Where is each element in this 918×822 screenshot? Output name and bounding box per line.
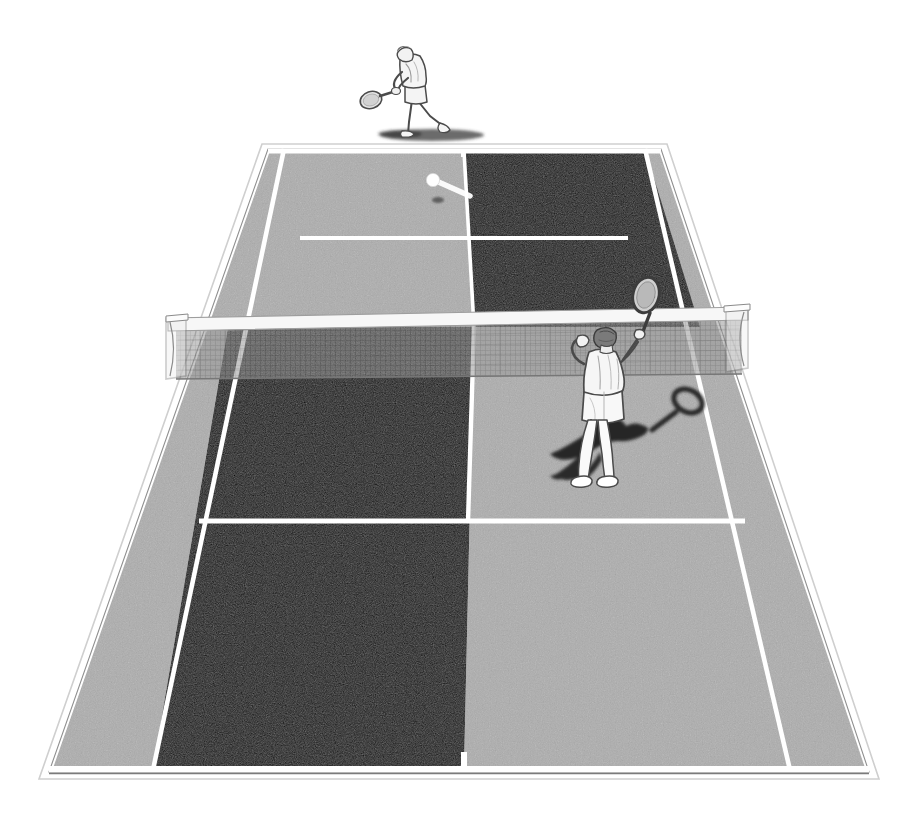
near-player-right-shoe [597,476,618,487]
near-player-shorts [582,391,624,423]
near-player-left-shoe [571,476,592,487]
left-net-post [166,314,188,379]
illustration-canvas: Tennis Court Illustration Stylized aeria… [0,0,918,822]
right-net-post [724,304,750,372]
tennis-court-illustration: Tennis Court Illustration Stylized aeria… [0,0,918,822]
ball-shadow [432,197,444,203]
